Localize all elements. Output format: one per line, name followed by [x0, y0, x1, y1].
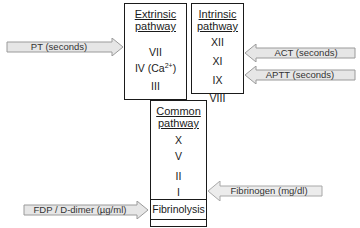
common-title-1: Common — [151, 105, 206, 117]
pt-arrow: PT (seconds) — [6, 38, 124, 56]
act-label: ACT (seconds) — [256, 44, 356, 62]
common-title-2: pathway — [151, 117, 206, 129]
intrinsic-title-2: pathway — [192, 20, 243, 32]
factor-vii: VII — [125, 46, 186, 58]
fdp-label: FDP / D-dimer (µg/ml) — [23, 201, 137, 219]
factor-ix: IX — [192, 74, 243, 86]
factor-xii: XII — [192, 36, 243, 48]
common-pathway-box: Common pathway X V II I — [150, 100, 207, 200]
factor-xi: XI — [192, 55, 243, 67]
extrinsic-title-2: pathway — [125, 20, 186, 32]
factor-iv: IV (Ca2+) — [125, 62, 186, 74]
factor-iv-text: IV (Ca — [135, 62, 165, 74]
factor-iii: III — [125, 80, 186, 92]
fibrinolysis-box: Fibrinolysis — [150, 199, 207, 227]
factor-iv-close: ) — [173, 62, 177, 74]
intrinsic-title-1: Intrinsic — [192, 8, 243, 20]
pt-label: PT (seconds) — [6, 38, 112, 56]
fibrinolysis-label: Fibrinolysis — [151, 200, 206, 220]
act-arrow: ACT (seconds) — [244, 44, 356, 62]
factor-iv-sup: 2+ — [165, 62, 173, 69]
extrinsic-title-1: Extrinsic — [125, 8, 186, 20]
fibrinogen-label: Fibrinogen (mg/dl) — [217, 182, 321, 200]
aptt-label: APTT (seconds) — [250, 66, 350, 84]
factor-ii: II — [151, 170, 206, 182]
factor-x: X — [151, 134, 206, 146]
factor-v: V — [151, 150, 206, 162]
intrinsic-pathway-box: Intrinsic pathway XII XI IX VIII — [191, 3, 244, 94]
extrinsic-pathway-box: Extrinsic pathway VII IV (Ca2+) III — [124, 3, 187, 100]
fibrinogen-arrow: Fibrinogen (mg/dl) — [207, 181, 323, 199]
fdp-arrow: FDP / D-dimer (µg/ml) — [23, 201, 149, 219]
aptt-arrow: APTT (seconds) — [244, 66, 356, 84]
factor-i: I — [151, 186, 206, 198]
